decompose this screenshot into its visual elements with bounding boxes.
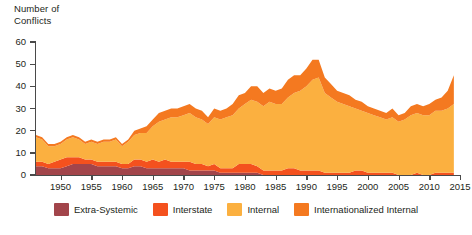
x-tick-label: 1965 <box>136 181 170 192</box>
x-tick-label: 1970 <box>166 181 200 192</box>
x-tick-label: 1950 <box>44 181 78 192</box>
legend-label: Internal <box>247 204 279 215</box>
x-tick <box>91 175 92 180</box>
x-tick <box>245 175 246 180</box>
area-series-internal <box>36 77 454 175</box>
stacked-area-svg <box>36 42 460 175</box>
x-tick <box>122 175 123 180</box>
x-tick-label: 1990 <box>289 181 323 192</box>
x-tick-label: 1995 <box>320 181 354 192</box>
x-tick-label: 1975 <box>197 181 231 192</box>
legend-label: Interstate <box>173 204 213 215</box>
y-tick-label: 40 <box>4 80 26 91</box>
legend-item[interactable]: Internationalized Internal <box>294 203 418 216</box>
x-tick <box>429 175 430 180</box>
legend-item[interactable]: Internal <box>227 203 279 216</box>
legend-item[interactable]: Extra-Systemic <box>54 203 138 216</box>
x-tick-label: 2015 <box>443 181 472 192</box>
y-tick-label: 10 <box>4 147 26 158</box>
x-tick-label: 2005 <box>382 181 416 192</box>
plot-area <box>36 42 460 175</box>
conflicts-area-chart: Number of Conflicts 0102030405060 195019… <box>0 0 472 235</box>
y-tick-label: 30 <box>4 103 26 114</box>
y-tick-label: 50 <box>4 58 26 69</box>
x-tick-label: 1955 <box>74 181 108 192</box>
x-tick <box>337 175 338 180</box>
legend-swatch-icon <box>153 203 168 216</box>
legend-swatch-icon <box>54 203 69 216</box>
y-axis-title: Number of Conflicts <box>14 3 59 26</box>
legend-swatch-icon <box>227 203 242 216</box>
y-tick-label: 0 <box>4 169 26 180</box>
chart-legend: Extra-SystemicInterstateInternalInternat… <box>0 203 472 216</box>
x-tick <box>61 175 62 180</box>
x-tick <box>276 175 277 180</box>
x-tick-label: 1985 <box>259 181 293 192</box>
y-tick-label: 60 <box>4 36 26 47</box>
x-tick-label: 1960 <box>105 181 139 192</box>
x-tick-label: 2010 <box>412 181 446 192</box>
x-tick <box>368 175 369 180</box>
x-tick <box>214 175 215 180</box>
x-tick <box>306 175 307 180</box>
x-tick-label: 2000 <box>351 181 385 192</box>
x-tick <box>399 175 400 180</box>
y-tick-label: 20 <box>4 125 26 136</box>
legend-item[interactable]: Interstate <box>153 203 213 216</box>
x-tick <box>460 175 461 180</box>
x-tick-label: 1980 <box>228 181 262 192</box>
legend-label: Extra-Systemic <box>74 204 138 215</box>
x-tick <box>183 175 184 180</box>
legend-swatch-icon <box>294 203 309 216</box>
x-tick <box>153 175 154 180</box>
legend-label: Internationalized Internal <box>314 204 418 215</box>
